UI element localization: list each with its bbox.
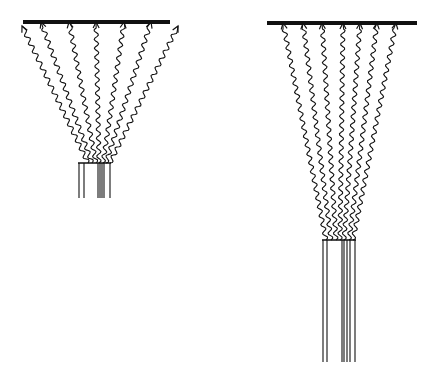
wavy-ray [22,26,89,163]
diagram-canvas [0,0,443,377]
wavy-ray [352,23,396,240]
wavy-ray [41,22,93,163]
photon-emission-diagram [0,0,443,377]
right-panel-far-source [267,23,417,362]
wavy-ray [338,23,345,240]
left-panel-near-source [22,22,178,198]
wavy-ray [110,26,178,163]
wavy-ray [94,22,101,163]
wavy-ray [321,23,338,240]
